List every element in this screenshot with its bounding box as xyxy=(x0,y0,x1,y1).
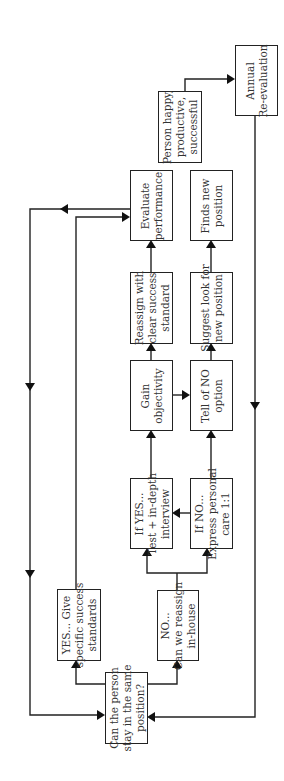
node-reassign-clear-standard: Reassign with clear success standard xyxy=(130,272,173,344)
arrow-head-icon xyxy=(146,430,156,438)
node-person-happy: Person happy, productive, successful xyxy=(158,91,202,163)
node-suggest-new-position: Suggest look for new position xyxy=(190,272,233,344)
node-label: If YES... Test + in-depth interview xyxy=(132,473,171,555)
arrow-head-icon xyxy=(25,570,35,578)
node-evaluate-performance: Evaluate performance xyxy=(130,170,173,241)
arrow-head-icon xyxy=(250,402,260,410)
arrow-head-icon xyxy=(25,383,35,391)
node-annual-reevaluation: Annual Re-evaluation xyxy=(235,45,278,116)
node-label: If NO... Express personal care 1:1 xyxy=(192,468,231,560)
node-label: Person happy, productive, successful xyxy=(161,90,200,164)
node-label: Finds new position xyxy=(199,178,225,233)
arrow-head-icon xyxy=(146,240,156,248)
arrow-head-icon xyxy=(147,712,155,722)
node-label: YES... Give specific success standards xyxy=(60,583,99,668)
arrow-head-icon xyxy=(122,212,130,222)
node-label: Gain objectivity xyxy=(139,368,165,423)
node-label: Annual Re-evaluation xyxy=(244,44,270,117)
node-label: Evaluate performance xyxy=(139,171,165,239)
node-can-person-stay: Can the person stay in the same position… xyxy=(105,672,148,744)
node-no-reassign-inhouse: NO... Can we reassign in-house xyxy=(157,590,199,661)
arrow-head-icon xyxy=(60,204,68,214)
node-if-yes-test-interview: If YES... Test + in-depth interview xyxy=(130,478,173,549)
node-label: NO... Can we reassign in-house xyxy=(159,581,198,669)
node-label: Tell of NO option xyxy=(199,369,225,423)
node-label: Suggest look for new position xyxy=(199,264,225,352)
node-if-no-personal-care: If NO... Express personal care 1:1 xyxy=(190,478,233,549)
arrow-head-icon xyxy=(182,390,190,400)
node-tell-no-option: Tell of NO option xyxy=(190,360,233,431)
arrow-head-icon xyxy=(227,74,235,84)
arrow-head-icon xyxy=(206,240,216,248)
flowchart-canvas: Can the person stay in the same position… xyxy=(0,0,284,781)
node-finds-new-position: Finds new position xyxy=(190,170,233,241)
arrow-head-icon xyxy=(172,508,180,518)
arrow-head-icon xyxy=(206,430,216,438)
arrow-head-icon xyxy=(97,710,105,720)
node-label: Can the person stay in the same position… xyxy=(107,665,146,752)
node-label: Reassign with clear success standard xyxy=(132,271,171,346)
node-gain-objectivity: Gain objectivity xyxy=(130,360,173,431)
node-yes-give-standards: YES... Give specific success standards xyxy=(57,589,101,661)
edge-yes-to-evaluate xyxy=(76,217,124,589)
edge-start-to-yes xyxy=(76,666,105,684)
